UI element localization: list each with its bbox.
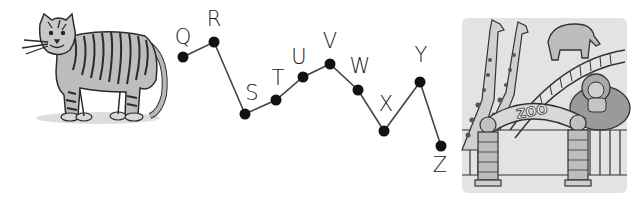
dot-w [353,85,364,96]
dot-s [240,109,251,120]
dot-q [178,52,189,63]
dot-v [325,59,336,70]
dot-r [209,37,220,48]
dot-path [0,0,636,202]
dot-x [379,126,390,137]
dot-z [436,141,447,152]
letter-z: Z [433,155,447,176]
letter-x: X [379,94,393,115]
letter-u: U [291,47,306,68]
letter-r: R [207,9,222,30]
letter-v: V [323,31,337,52]
letter-q: Q [175,27,192,48]
letter-t: T [272,68,285,89]
dot-y [415,77,426,88]
connecting-line [183,42,441,146]
letter-s: S [245,83,258,104]
dot-u [298,72,309,83]
letter-w: W [350,56,371,77]
letter-y: Y [415,45,428,66]
dot-t [271,95,282,106]
connect-the-dots-worksheet: ZOO QRSTUVWXYZ [0,0,636,202]
